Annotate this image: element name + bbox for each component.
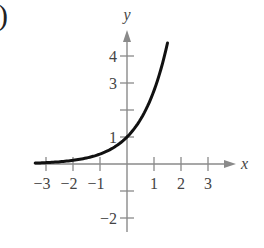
- x-tick-label: 1: [150, 175, 158, 192]
- function-graph: −3−2−1123−2134xy: [0, 0, 264, 248]
- y-axis-arrow-icon: [123, 30, 131, 42]
- x-tick-label: 3: [204, 175, 212, 192]
- x-tick-label: −1: [87, 175, 104, 192]
- x-tick-label: −2: [60, 175, 77, 192]
- y-tick-label: 3: [109, 75, 117, 92]
- y-tick-label: 1: [109, 129, 117, 146]
- y-tick-label: −2: [100, 210, 117, 227]
- y-tick-label: 4: [109, 48, 117, 65]
- x-tick-label: 2: [177, 175, 185, 192]
- x-axis-arrow-icon: [224, 160, 236, 168]
- axes: [35, 30, 236, 232]
- exponential-curve: [35, 43, 167, 163]
- x-tick-label: −3: [33, 175, 50, 192]
- x-axis-label: x: [240, 155, 248, 172]
- y-axis-label: y: [121, 6, 131, 24]
